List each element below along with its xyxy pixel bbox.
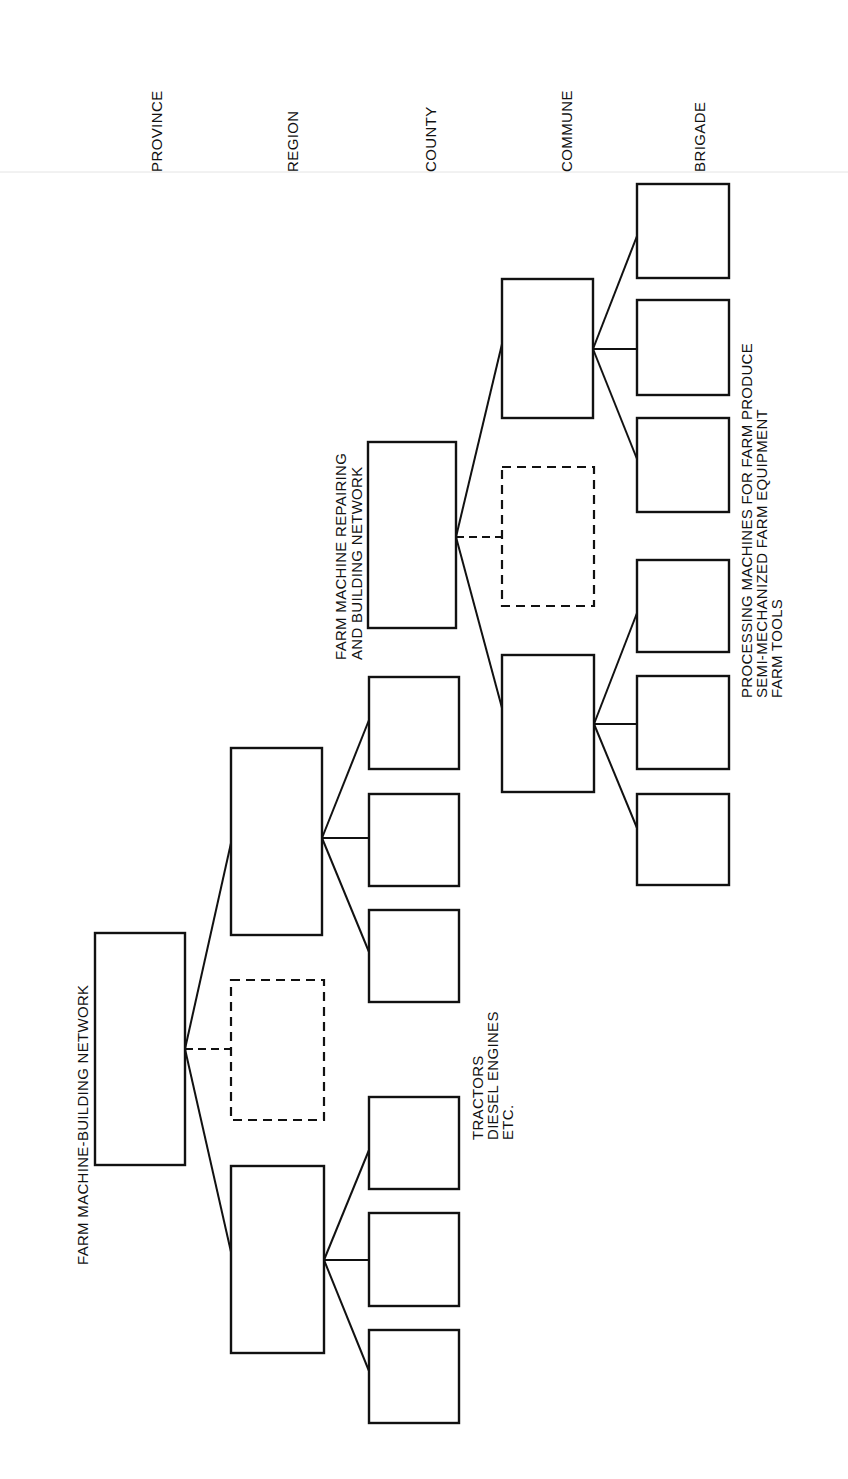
- level-label-region: REGION: [284, 110, 301, 172]
- connector-province-region1: [185, 843, 231, 1049]
- connector-region1-county3: [322, 838, 369, 952]
- connector-county-commune1: [456, 344, 502, 537]
- commune-box-dashed: [502, 467, 594, 606]
- county-box-r2-3: [369, 1330, 459, 1423]
- level-label-commune: COMMUNE: [558, 90, 575, 172]
- brigade-box-c1-3: [637, 418, 729, 512]
- connector-region1-county1: [322, 720, 369, 838]
- connector-commune1-brigade1: [593, 236, 637, 349]
- region-box-2: [231, 1166, 324, 1353]
- county-products-line3: ETC.: [499, 1105, 516, 1140]
- provincial-network-label: FARM MACHINE-BUILDING NETWORK: [74, 985, 91, 1265]
- county-box-r2-2: [369, 1213, 459, 1306]
- connector-region2-county1: [324, 1150, 369, 1260]
- county-box-r1-2: [369, 794, 459, 886]
- connector-commune1-brigade3: [593, 349, 637, 459]
- county-network-box: [368, 442, 456, 628]
- county-box-r1-1: [369, 677, 459, 769]
- connector-county-commune2: [456, 537, 502, 708]
- brigade-box-c2-3: [637, 794, 729, 885]
- connector-province-region2: [185, 1049, 231, 1252]
- province-box: [95, 933, 185, 1165]
- level-label-brigade: BRIGADE: [691, 102, 708, 172]
- county-box-r2-1: [369, 1097, 459, 1189]
- region-box-1: [231, 748, 322, 935]
- connector-commune2-brigade3: [594, 724, 637, 828]
- brigade-products-line3: FARM TOOLS: [768, 599, 785, 698]
- region-box-dashed: [231, 980, 324, 1120]
- county-box-r1-3: [369, 910, 459, 1002]
- connector-region2-county3: [324, 1260, 369, 1371]
- brigade-box-c2-2: [637, 676, 729, 769]
- county-network-label-line2: AND BUILDING NETWORK: [348, 466, 365, 660]
- connector-commune2-brigade1: [594, 613, 637, 724]
- brigade-box-c1-2: [637, 300, 729, 395]
- level-label-province: PROVINCE: [148, 90, 165, 172]
- brigade-box-c2-1: [637, 560, 729, 652]
- org-tree-diagram: PROVINCE REGION COUNTY COMMUNE BRIGADE F…: [0, 0, 848, 1479]
- commune-box-1: [502, 279, 593, 418]
- commune-box-2: [502, 655, 594, 792]
- brigade-box-c1-1: [637, 184, 729, 278]
- level-label-county: COUNTY: [422, 106, 439, 172]
- county-network-label-line1: FARM MACHINE REPAIRING: [332, 453, 349, 660]
